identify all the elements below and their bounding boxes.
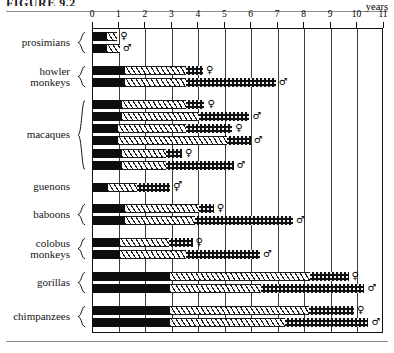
sex-symbol-female: ♀ <box>217 203 224 213</box>
axis-tick-label: 3 <box>169 9 174 19</box>
category-label-howler-monkeys: howlermonkeys <box>30 65 70 88</box>
stacked-bar[interactable] <box>92 183 170 192</box>
sex-symbol-female: ♀ <box>185 148 192 158</box>
bar-segment-juvenile <box>125 78 186 87</box>
bar-segment-infant <box>92 204 125 213</box>
bar-segment-adolescent <box>261 284 364 293</box>
bar-segment-adolescent <box>186 100 205 109</box>
axis-tick-label: 4 <box>195 9 200 19</box>
bar-segment-adolescent <box>195 216 293 225</box>
stacked-bar[interactable] <box>92 284 364 293</box>
bar-segment-juvenile <box>122 149 166 158</box>
stacked-bar[interactable] <box>92 66 203 75</box>
bar-row: ♀ <box>92 204 383 213</box>
bar-row: ♂ <box>92 318 383 327</box>
group-brace <box>77 32 86 53</box>
stacked-bar[interactable] <box>92 204 214 213</box>
stacked-bar[interactable] <box>92 272 349 281</box>
stacked-bar[interactable] <box>92 250 260 259</box>
bar-segment-infant <box>92 318 170 327</box>
group-brace <box>77 306 86 327</box>
category-label-chimpanzees: chimpanzees <box>13 311 70 323</box>
bar-segment-adolescent <box>227 136 251 145</box>
group-brace <box>77 272 86 293</box>
bar-segment-juvenile <box>118 136 226 145</box>
bar-segment-adolescent <box>186 66 203 75</box>
bar-segment-infant <box>92 44 107 53</box>
category-label-prosimians: prosimians <box>22 37 70 49</box>
bar-segment-infant <box>92 250 120 259</box>
category-label-colobus-monkeys: colobusmonkeys <box>30 237 70 260</box>
bar-row: ♀ <box>92 66 383 75</box>
figure-title: FIGURE 9.2 <box>6 0 76 6</box>
category-label-gorillas: gorillas <box>37 277 70 289</box>
stacked-bar[interactable] <box>92 149 182 158</box>
bar-segment-infant <box>92 112 122 121</box>
group-brace <box>77 66 86 87</box>
bar-segment-infant <box>92 284 170 293</box>
sex-symbol-female: ♀ <box>207 99 214 109</box>
group-brace <box>77 238 86 259</box>
axis-tick-label: 1 <box>116 9 121 19</box>
sex-symbol-female: ♀ <box>206 65 213 75</box>
bar-segment-infant <box>92 306 170 315</box>
stacked-bar[interactable] <box>92 161 234 170</box>
bar-segment-juvenile <box>107 44 120 53</box>
bar-segment-infant <box>92 161 122 170</box>
stacked-bar[interactable] <box>92 124 232 133</box>
stacked-bar[interactable] <box>92 100 204 109</box>
stacked-bar[interactable] <box>92 238 193 247</box>
bar-segment-juvenile <box>122 112 199 121</box>
bar-row: ♀ <box>92 32 383 41</box>
stacked-bar[interactable] <box>92 32 117 41</box>
axis-tick-label: 6 <box>248 9 253 19</box>
stacked-bar[interactable] <box>92 306 354 315</box>
bar-segment-juvenile <box>122 100 185 109</box>
bar-row: ♀ <box>92 272 383 281</box>
sex-symbol-male: ♂ <box>296 215 305 225</box>
sex-symbol-both: ⚥ <box>173 182 182 192</box>
bar-row: ♂ <box>92 112 383 121</box>
bar-segment-infant <box>92 272 170 281</box>
bar-segment-infant <box>92 238 120 247</box>
axis-tick-label: 10 <box>352 9 362 19</box>
bar-row: ♂ <box>92 250 383 259</box>
sex-symbol-female: ♀ <box>357 305 364 315</box>
bar-segment-infant <box>92 78 125 87</box>
bar-row: ♀ <box>92 124 383 133</box>
stacked-bar[interactable] <box>92 44 120 53</box>
axis-tick-label: 8 <box>301 9 306 19</box>
stacked-bar[interactable] <box>92 318 368 327</box>
axis-tick-label: 9 <box>328 9 333 19</box>
bar-row: ♀ <box>92 149 383 158</box>
category-label-guenons: guenons <box>33 181 70 193</box>
bar-segment-adolescent <box>169 238 193 247</box>
bar-segment-juvenile <box>118 124 185 133</box>
bar-row: ♂ <box>92 78 383 87</box>
stacked-bar[interactable] <box>92 78 276 87</box>
stacked-bar[interactable] <box>92 112 249 121</box>
bar-segment-juvenile <box>120 238 169 247</box>
sex-symbol-male: ♂ <box>237 160 246 170</box>
bar-segment-juvenile <box>170 306 309 315</box>
stacked-bar[interactable] <box>92 136 251 145</box>
category-labels: prosimianshowlermonkeysmacaquesguenonsba… <box>0 28 92 333</box>
bar-segment-adolescent <box>310 272 348 281</box>
bar-segment-infant <box>92 183 108 192</box>
group-brace <box>77 100 86 170</box>
stacked-bar[interactable] <box>92 216 293 225</box>
sex-symbol-female: ♀ <box>235 123 242 133</box>
bar-segment-juvenile <box>107 32 118 41</box>
sex-symbol-male: ♂ <box>252 111 261 121</box>
bar-segment-adolescent <box>309 306 354 315</box>
bar-row: ♀ <box>92 306 383 315</box>
bar-segment-adolescent <box>199 112 249 121</box>
sex-symbol-female: ♀ <box>196 237 203 247</box>
bottom-rule <box>6 341 388 342</box>
bar-segment-juvenile <box>122 161 166 170</box>
sex-symbol-male: ♂ <box>371 317 380 327</box>
bars-layer: ♀♂♀♂♀♂♀♂♀♂⚥♀♂♀♂♀♂♀♂ <box>92 28 383 333</box>
bar-segment-juvenile <box>108 183 137 192</box>
bar-row: ♀ <box>92 238 383 247</box>
bar-segment-infant <box>92 66 125 75</box>
